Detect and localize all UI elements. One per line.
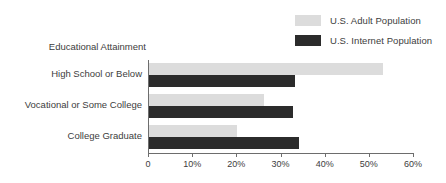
category-axis-title: Educational Attainment — [0, 41, 146, 52]
axis-tick — [325, 153, 326, 157]
legend-swatch-icon-adult — [295, 15, 321, 26]
bar-internet-high-school — [149, 75, 295, 87]
category-label-vocational: Vocational or Some College — [0, 99, 142, 110]
bar-internet-college-graduate — [149, 137, 299, 149]
axis-tick — [369, 153, 370, 157]
legend-label-internet: U.S. Internet Population — [330, 35, 432, 46]
category-label-college-graduate: College Graduate — [0, 130, 142, 141]
legend-label-adult: U.S. Adult Population — [330, 15, 421, 26]
axis-tick-label: 40% — [316, 159, 334, 169]
axis-tick — [413, 153, 414, 157]
axis-tick-label: 0 — [145, 159, 150, 169]
axis-tick — [148, 153, 149, 157]
legend-swatch-icon-internet — [295, 35, 321, 46]
axis-tick — [192, 153, 193, 157]
bar-internet-vocational — [149, 106, 293, 118]
axis-tick — [236, 153, 237, 157]
bar-adult-high-school — [149, 63, 383, 75]
axis-tick-label: 20% — [227, 159, 245, 169]
plot-area: 010%20%30%40%50%60% — [148, 60, 413, 153]
bar-adult-vocational — [149, 94, 264, 106]
bar-adult-college-graduate — [149, 125, 237, 137]
legend-item-adult-population: U.S. Adult Population — [295, 12, 445, 28]
chart-legend: U.S. Adult Population U.S. Internet Popu… — [295, 12, 445, 52]
axis-tick-label: 10% — [183, 159, 201, 169]
legend-item-internet-population: U.S. Internet Population — [295, 32, 445, 48]
axis-tick-label: 30% — [271, 159, 289, 169]
axis-tick — [281, 153, 282, 157]
axis-tick-label: 60% — [404, 159, 422, 169]
axis-tick-label: 50% — [360, 159, 378, 169]
category-label-high-school: High School or Below — [0, 68, 142, 79]
bar-chart: U.S. Adult Population U.S. Internet Popu… — [0, 0, 446, 183]
